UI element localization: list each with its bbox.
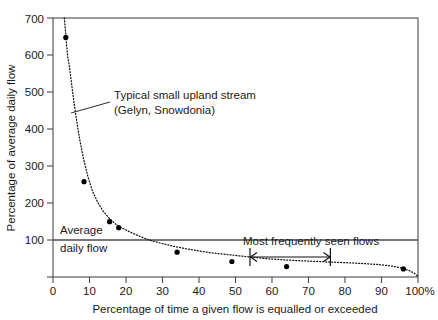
y-tick-label: 500 xyxy=(25,86,44,98)
stream-callout-leader-line xyxy=(71,102,110,113)
data-point xyxy=(63,35,68,40)
y-tick-label: 700 xyxy=(25,13,44,25)
data-point xyxy=(107,219,112,224)
y-tick-label: 400 xyxy=(25,123,44,135)
data-point xyxy=(284,264,289,269)
y-tick-label: 100 xyxy=(25,234,44,246)
x-tick-label: 0 xyxy=(50,285,56,297)
x-tick-label: 30 xyxy=(156,285,169,297)
x-tick-label: 60 xyxy=(266,285,279,297)
x-tick-label: 10 xyxy=(83,285,96,297)
y-axis-title: Percentage of average daily flow xyxy=(5,64,17,232)
flow-duration-chart: 100 200 300 400 500 600 700 Percentage o… xyxy=(0,0,438,320)
stream-callout-line2: (Gelyn, Snowdonia) xyxy=(114,104,215,116)
x-tick-label: 50 xyxy=(229,285,242,297)
data-point xyxy=(116,225,121,230)
y-axis-ticks xyxy=(47,18,53,277)
chart-svg: 100 200 300 400 500 600 700 Percentage o… xyxy=(0,0,438,320)
x-axis-ticks xyxy=(53,277,418,283)
y-tick-label: 600 xyxy=(25,49,44,61)
average-daily-flow-label-line2: daily flow xyxy=(60,242,108,254)
y-tick-label: 200 xyxy=(25,197,44,209)
x-tick-label: 90 xyxy=(375,285,388,297)
data-point xyxy=(81,179,86,184)
average-daily-flow-label-line1: Average xyxy=(60,224,103,236)
x-axis-tick-labels: 0 10 20 30 40 50 60 70 80 90 100% xyxy=(50,285,435,297)
most-frequent-flows-label: Most frequently seen flows xyxy=(243,235,379,247)
x-tick-label: 40 xyxy=(193,285,206,297)
stream-callout-line1: Typical small upland stream xyxy=(114,89,256,101)
y-axis-tick-labels: 100 200 300 400 500 600 700 xyxy=(25,13,44,246)
x-tick-label: 100% xyxy=(405,285,434,297)
y-tick-label: 300 xyxy=(25,160,44,172)
x-tick-label: 20 xyxy=(120,285,133,297)
x-axis-title: Percentage of time a given flow is equal… xyxy=(92,303,377,315)
data-point xyxy=(175,250,180,255)
data-point xyxy=(229,259,234,264)
x-tick-label: 70 xyxy=(302,285,315,297)
data-point xyxy=(401,266,406,271)
x-tick-label: 80 xyxy=(339,285,352,297)
